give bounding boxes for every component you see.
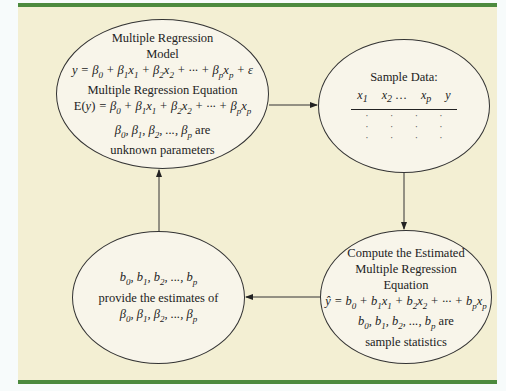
sample-data-table: x1x2 …xpy ···· ···· ···· bbox=[351, 87, 456, 142]
sample-data-title: Sample Data: bbox=[370, 69, 438, 85]
sample-table-row: ···· bbox=[351, 132, 456, 143]
model-title-line1: Multiple Regression bbox=[112, 30, 214, 46]
node-sample-data: Sample Data: x1x2 …xpy ···· ···· ···· bbox=[318, 39, 490, 173]
parameters-line: β0, β1, β2, ..., βp are bbox=[115, 122, 211, 143]
parameters-caption: unknown parameters bbox=[110, 142, 214, 158]
sample-table-header: x1x2 …xpy bbox=[351, 87, 456, 109]
sample-table-row: ···· bbox=[351, 121, 456, 132]
node-regression-model: Multiple Regression Model y = β0 + β1x1 … bbox=[56, 19, 269, 169]
node-compute-estimated-equation: Compute the Estimated Multiple Regressio… bbox=[320, 230, 492, 364]
estimates-coefficients: b0, b1, b2, ..., bp bbox=[120, 269, 197, 290]
regression-equation: E(y) = β0 + β1x1 + β2x2 + ··· + βpxp bbox=[74, 98, 251, 119]
statistics-caption: sample statistics bbox=[365, 334, 447, 350]
estimates-parameters: β0, β1, β2, ..., βp bbox=[120, 306, 197, 327]
regression-equation-label: Multiple Regression Equation bbox=[88, 82, 238, 98]
model-equation: y = β0 + β1x1 + β2x2 + ··· + βpxp + ε bbox=[72, 62, 253, 83]
statistics-line: b0, b1, b2, ..., bp are bbox=[358, 313, 454, 334]
node-estimates: b0, b1, b2, ..., bp provide the estimate… bbox=[72, 231, 245, 364]
compute-title-line1: Compute the Estimated bbox=[347, 245, 464, 261]
compute-title-line3: Equation bbox=[383, 277, 428, 293]
estimates-caption: provide the estimates of bbox=[99, 290, 219, 306]
sample-table-row: ···· bbox=[351, 110, 456, 121]
model-title-line2: Model bbox=[146, 46, 179, 62]
diagram-panel: Multiple Regression Model y = β0 + β1x1 … bbox=[18, 3, 497, 384]
compute-title-line2: Multiple Regression bbox=[355, 261, 457, 277]
estimated-equation: ŷ = b0 + b1x1 + b2x2 + ··· + bpxp bbox=[325, 293, 487, 314]
